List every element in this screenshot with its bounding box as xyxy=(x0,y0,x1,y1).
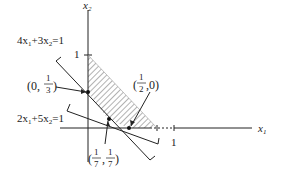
line-b-label: 2x1+5x2=1 xyxy=(17,112,64,126)
svg-text:1: 1 xyxy=(46,73,51,83)
y-tick-label: 1 xyxy=(74,48,80,60)
x-tick-label: 1 xyxy=(171,136,177,148)
svg-text:,: , xyxy=(102,152,105,166)
svg-text:2: 2 xyxy=(139,84,144,94)
label-0-third: (0, 1 3 ) xyxy=(27,73,57,95)
svg-text:1: 1 xyxy=(139,72,144,82)
svg-text:(: ( xyxy=(88,152,92,166)
line-a-label: 4x1+3x2=1 xyxy=(17,34,64,48)
x-axis-label: x1 xyxy=(257,122,266,136)
svg-text:(0,: (0, xyxy=(27,79,40,93)
svg-text:(: ( xyxy=(133,78,137,92)
y-axis-label: x2 xyxy=(82,0,92,13)
point-seventh xyxy=(107,117,111,121)
svg-text:,0): ,0) xyxy=(146,78,159,92)
label-seventh: ( 1 7 , 1 7 ) xyxy=(88,147,119,169)
svg-text:): ) xyxy=(53,79,57,93)
line-4x1-3x2-hook xyxy=(150,156,155,160)
point-0-third xyxy=(86,90,90,94)
svg-text:3: 3 xyxy=(46,85,51,95)
svg-text:1: 1 xyxy=(108,147,113,157)
svg-text:7: 7 xyxy=(108,159,113,169)
svg-text:): ) xyxy=(115,152,119,166)
svg-text:1: 1 xyxy=(94,147,99,157)
lp-diagram: x2 x1 1 1 4x1+3x2=1 2x1+5x2=1 (0, 1 3 ) … xyxy=(0,0,282,183)
point-half-0 xyxy=(127,126,131,130)
label-half-0: ( 1 2 ,0) xyxy=(133,72,159,94)
arrowhead-seventh xyxy=(106,121,110,126)
svg-text:7: 7 xyxy=(94,159,99,169)
